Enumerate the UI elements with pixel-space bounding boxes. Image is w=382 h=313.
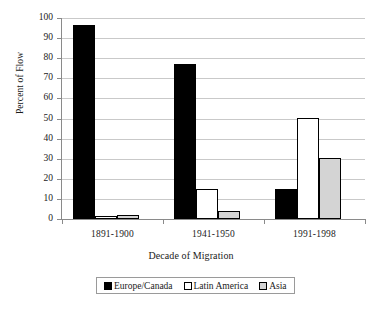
bar: [73, 25, 95, 219]
y-axis-tick-label: 80: [24, 53, 53, 62]
gridline: [62, 78, 365, 79]
legend-item: Europe/Canada: [104, 281, 173, 291]
legend-item: Asia: [259, 281, 286, 291]
legend-item: Latin America: [184, 281, 249, 291]
legend-label: Europe/Canada: [114, 281, 173, 291]
bar: [95, 216, 117, 219]
y-axis-tick-label: 40: [24, 134, 53, 143]
y-axis-tick-label: 100: [24, 13, 53, 22]
legend: Europe/Canada Latin America Asia: [96, 277, 295, 294]
bar: [297, 118, 319, 220]
y-axis-tick-label: 20: [24, 174, 53, 183]
y-axis-tick-label: 30: [24, 154, 53, 163]
x-axis-tick: [365, 219, 366, 224]
y-axis-tick-label: 0: [24, 214, 53, 223]
gridline: [62, 139, 365, 140]
gridline: [62, 98, 365, 99]
legend-label: Asia: [269, 281, 286, 291]
legend-swatch-icon: [184, 282, 192, 290]
gridline: [62, 58, 365, 59]
x-axis-tick: [264, 219, 265, 224]
bar: [319, 158, 341, 219]
gridline: [62, 18, 365, 19]
y-axis-tick-label: 10: [24, 194, 53, 203]
x-axis-tick: [62, 219, 63, 224]
x-axis-category-label: 1941-1950: [163, 229, 264, 240]
bar: [174, 64, 196, 219]
y-axis-tick-label: 70: [24, 73, 53, 82]
y-axis-tick-label: 90: [24, 33, 53, 42]
legend-label: Latin America: [194, 281, 249, 291]
gridline: [62, 38, 365, 39]
bar: [196, 189, 218, 219]
x-axis-category-label: 1891-1900: [62, 229, 163, 240]
y-axis-tick-label: 60: [24, 93, 53, 102]
gridline: [62, 219, 365, 220]
plot-area: [62, 18, 365, 219]
legend-swatch-icon: [259, 282, 267, 290]
x-axis-category-label: 1991-1998: [264, 229, 365, 240]
bar: [275, 189, 297, 219]
x-axis-title: Decade of Migration: [0, 250, 382, 261]
gridline: [62, 119, 365, 120]
bar: [218, 211, 240, 219]
x-axis-tick: [163, 219, 164, 224]
y-axis-tick-label: 50: [24, 114, 53, 123]
bar-chart: Percent of Flow 1009080706050403020100 1…: [0, 0, 382, 313]
legend-swatch-icon: [104, 282, 112, 290]
bar: [117, 215, 139, 219]
